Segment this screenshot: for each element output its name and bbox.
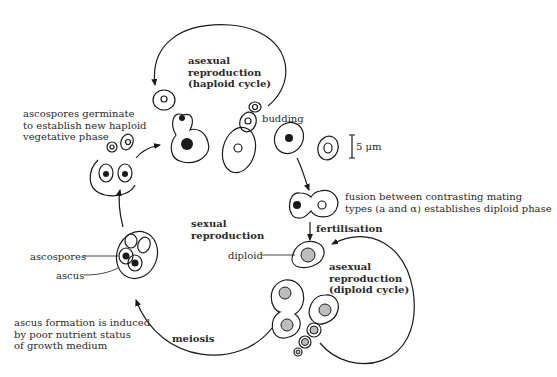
yeast-life-cycle-diagram: asexual reproduction (haploid cycle) asc… — [0, 0, 557, 377]
ascus-leader — [84, 268, 118, 275]
haploid-cell — [153, 90, 175, 110]
ascospores-label: ascospores — [30, 251, 86, 263]
fusion-label: fusion between contrasting mating types … — [345, 191, 552, 214]
budding-label: budding — [262, 113, 304, 125]
diploid-label: diploid — [228, 250, 263, 262]
ascospores-germinate-label: ascospores germinate to establish new ha… — [23, 108, 147, 143]
diploid-cycle-arrow — [320, 237, 414, 364]
sexual-reproduction-label: sexual reproduction — [191, 218, 264, 241]
germinate-to-vegetative-arrow — [136, 145, 160, 158]
meiosis-label: meiosis — [172, 333, 214, 345]
budding-chain-mid — [237, 110, 259, 134]
scale-bar — [349, 135, 355, 158]
scale-bar-label: 5 μm — [356, 141, 382, 153]
asexual-haploid-label: asexual reproduction (haploid cycle) — [188, 55, 271, 90]
ascus-formation-label: ascus formation is induced by poor nutri… — [14, 317, 150, 352]
budding-chain-small — [249, 102, 261, 112]
haploid-budding-cell — [171, 114, 208, 163]
asexual-diploid-label: asexual reproduction (diploid cycle) — [329, 261, 409, 296]
mating-arrow — [297, 158, 309, 190]
ascus-label: ascus — [56, 270, 84, 282]
meiosis-arrow — [136, 300, 272, 355]
haploid-alpha-cell — [314, 133, 341, 162]
diploid-nucleus — [301, 248, 315, 262]
fertilisation-label: fertilisation — [316, 223, 382, 235]
budding-chain-large — [218, 124, 261, 177]
